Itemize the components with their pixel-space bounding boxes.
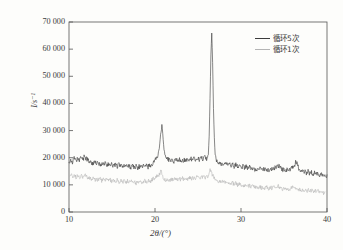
data-series-line <box>69 169 325 195</box>
x-axis-tick-label: 10 <box>54 215 84 224</box>
xrd-chart-figure: I/s⁻¹ 010 00020 00030 00040 00050 00060 … <box>0 0 343 250</box>
data-series-group <box>69 33 327 195</box>
x-axis-tick-label: 40 <box>312 215 342 224</box>
legend-item-label: 循环5次 <box>273 33 299 44</box>
legend-item-label: 循环1次 <box>273 44 299 55</box>
legend-line-swatch <box>255 49 270 50</box>
y-axis-tick-label: 10 000 <box>21 180 65 189</box>
legend-line-swatch <box>255 38 270 39</box>
y-axis-tick-label: 50 000 <box>21 71 65 80</box>
x-axis-title: 2θ/(°) <box>150 228 171 238</box>
y-axis-tick-label: 70 000 <box>21 17 65 26</box>
y-axis-tick-label: 20 000 <box>21 153 65 162</box>
y-axis-tick-label: 60 000 <box>21 44 65 53</box>
legend-item[interactable]: 循环1次 <box>255 44 299 55</box>
legend-item[interactable]: 循环5次 <box>255 33 299 44</box>
chart-legend: 循环5次循环1次 <box>255 33 299 55</box>
x-axis-tick-label: 20 <box>140 215 170 224</box>
x-axis-tick-label: 30 <box>226 215 256 224</box>
y-axis-tick-label: 40 000 <box>21 98 65 107</box>
y-axis-tick-label: 30 000 <box>21 126 65 135</box>
